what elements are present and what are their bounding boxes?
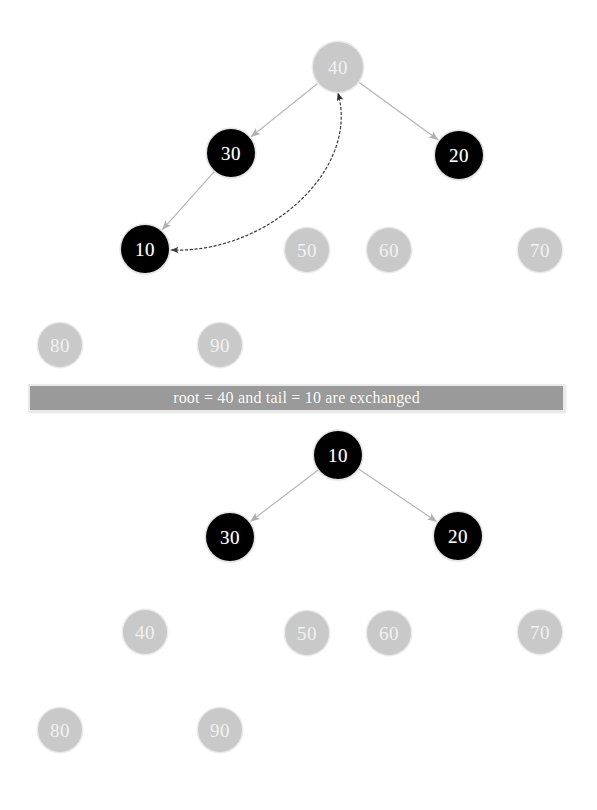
tree-node-60: 60 (367, 611, 411, 655)
tree-node-label: 30 (221, 144, 241, 163)
tree-node-label: 80 (50, 336, 70, 355)
tree-node-label: 80 (50, 721, 70, 740)
tree-node-10: 10 (121, 225, 169, 273)
tree-edge-40-to-30 (251, 83, 318, 137)
tree-node-label: 20 (448, 527, 468, 546)
status-banner: root = 40 and tail = 10 are exchanged (28, 384, 565, 412)
tree-edge-30-to-10 (162, 171, 215, 230)
tree-edge-10-to-30 (251, 470, 319, 522)
tree-edge-40-to-20 (358, 82, 438, 140)
tree-node-50: 50 (285, 228, 329, 272)
tree-node-label: 10 (328, 446, 348, 465)
status-banner-text: root = 40 and tail = 10 are exchanged (173, 389, 420, 407)
swap-arrow-curve (171, 93, 341, 250)
tree-node-label: 20 (449, 146, 469, 165)
tree-node-label: 90 (210, 721, 230, 740)
tree-node-label: 50 (297, 241, 317, 260)
tree-node-label: 50 (297, 624, 317, 643)
tree-node-90: 90 (198, 708, 242, 752)
tree-node-label: 40 (135, 623, 155, 642)
tree-node-10: 10 (314, 431, 362, 479)
tree-node-60: 60 (367, 228, 411, 272)
tree-node-label: 30 (220, 528, 240, 547)
tree-node-label: 70 (530, 623, 550, 642)
tree-node-30: 30 (207, 129, 255, 177)
tree-node-30: 30 (206, 513, 254, 561)
tree-node-label: 40 (328, 58, 348, 77)
tree-node-label: 70 (530, 241, 550, 260)
tree-node-50: 50 (285, 611, 329, 655)
tree-node-40: 40 (313, 42, 363, 92)
tree-node-80: 80 (38, 708, 82, 752)
tree-node-20: 20 (434, 512, 482, 560)
tree-node-70: 70 (518, 228, 562, 272)
tree-node-label: 10 (135, 240, 155, 259)
tree-node-80: 80 (38, 323, 82, 367)
tree-node-90: 90 (198, 323, 242, 367)
tree-node-label: 60 (379, 241, 399, 260)
diagram-canvas: 403020105060708090103020405060708090 roo… (0, 0, 597, 810)
tree-node-label: 90 (210, 336, 230, 355)
tree-node-label: 60 (379, 624, 399, 643)
tree-node-40: 40 (123, 610, 167, 654)
tree-node-70: 70 (518, 610, 562, 654)
tree-edge-10-to-20 (358, 468, 437, 521)
tree-node-20: 20 (435, 131, 483, 179)
